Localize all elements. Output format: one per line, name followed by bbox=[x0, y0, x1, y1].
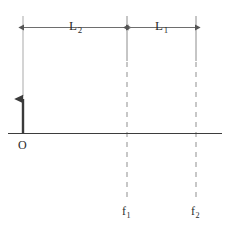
tick-label-f1: f1 bbox=[122, 205, 130, 217]
figure-canvas: L2 L1 O f1 f2 bbox=[0, 0, 229, 232]
dimension-label-L1: L1 bbox=[155, 19, 168, 32]
tick-label-f2-sub: 2 bbox=[196, 211, 200, 220]
dimension-label-L2-main: L bbox=[69, 18, 77, 33]
tick-label-f1-sub: 1 bbox=[127, 211, 131, 220]
origin-label: O bbox=[18, 139, 27, 151]
tick-label-f1-main: f bbox=[122, 204, 126, 218]
tick-label-f2: f2 bbox=[191, 205, 199, 217]
tick-label-f2-main: f bbox=[191, 204, 195, 218]
dimension-label-L1-main: L bbox=[155, 18, 163, 33]
dimension-label-L2-sub: 2 bbox=[78, 25, 83, 35]
dimension-label-L1-sub: 1 bbox=[164, 25, 169, 35]
dimension-label-L2: L2 bbox=[69, 19, 82, 32]
diagram-svg bbox=[0, 0, 229, 232]
